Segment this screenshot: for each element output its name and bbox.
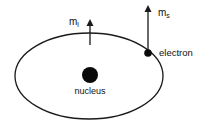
ms-label: ms [158,7,170,19]
nucleus-label: nucleus [74,86,106,96]
nucleus-dot [82,67,98,83]
orbit-diagram: nucleus ml ms electron [0,0,214,122]
arrowhead-up-icon [87,19,94,26]
ms-arrow [145,5,152,53]
arrowhead-up-icon [145,5,152,12]
ml-label: ml [69,16,79,28]
electron-dot [144,49,152,57]
electron-label: electron [159,47,193,58]
ml-arrow [87,19,94,45]
